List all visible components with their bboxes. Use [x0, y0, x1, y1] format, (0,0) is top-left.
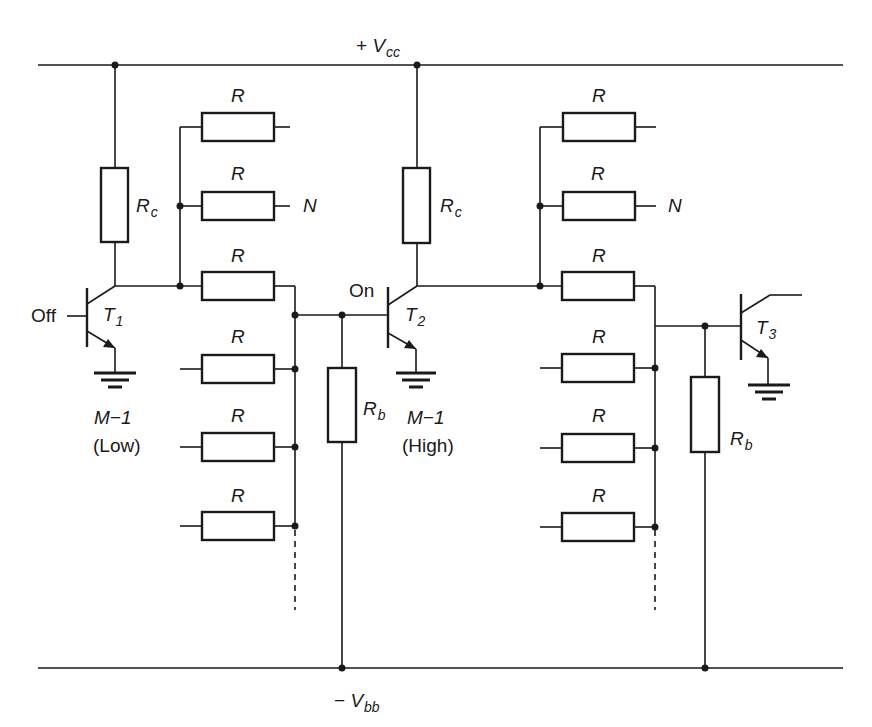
fanout-resistor [540, 192, 656, 220]
r-label: R [591, 164, 605, 183]
t1-group-label: M−1 [94, 408, 132, 427]
t1-level-label: (Low) [93, 436, 141, 455]
collector-resistor-2 [403, 62, 430, 287]
t1-label: T1 [103, 305, 123, 324]
ground-icon [748, 385, 790, 399]
fanout-n-label: N [303, 196, 317, 215]
base-resistor-1 [328, 315, 356, 672]
vbb-label: − Vbb [334, 691, 380, 710]
fanin-resistor [180, 433, 299, 461]
r-label: R [231, 406, 245, 425]
fanin-resistor [180, 355, 299, 383]
r-label: R [592, 246, 606, 265]
fanin-resistor [540, 354, 659, 382]
ground-icon [94, 373, 136, 387]
coupling-resistor [562, 272, 655, 300]
transistor-t2 [388, 286, 417, 372]
base-resistor-2 [691, 326, 719, 672]
r-label: R [592, 486, 606, 505]
t2-group-label: M−1 [407, 408, 445, 427]
fanout-resistor [540, 113, 656, 141]
r-label: R [231, 327, 245, 346]
coupling-resistor [202, 272, 295, 300]
fanin-resistor [180, 512, 299, 540]
r-label: R [592, 327, 606, 346]
transistor-t1 [67, 286, 115, 372]
t2-label: T2 [405, 305, 425, 324]
r-label: R [231, 246, 245, 265]
r-label: R [231, 486, 245, 505]
t1-state-label: Off [31, 306, 56, 325]
fanout-resistor [180, 192, 290, 220]
r-label: R [231, 164, 245, 183]
rb-label-2: Rb [730, 429, 753, 448]
rc-label-1: Rc [136, 196, 158, 215]
circuit-schematic [0, 0, 872, 727]
vcc-label: + Vcc [356, 36, 400, 55]
collector-resistor-1 [101, 62, 128, 287]
fanin-resistor [540, 513, 659, 541]
fanin-resistor [540, 434, 659, 462]
r-label: R [592, 86, 606, 105]
fanout-resistor [180, 113, 290, 141]
t2-state-label: On [349, 281, 374, 300]
t3-label: T3 [756, 318, 776, 337]
t2-level-label: (High) [402, 436, 454, 455]
rc-label-2: Rc [440, 196, 462, 215]
r-label: R [592, 406, 606, 425]
r-label: R [231, 86, 245, 105]
ground-icon [396, 373, 436, 387]
fanout-n-label: N [668, 196, 682, 215]
rb-label-1: Rb [363, 399, 386, 418]
